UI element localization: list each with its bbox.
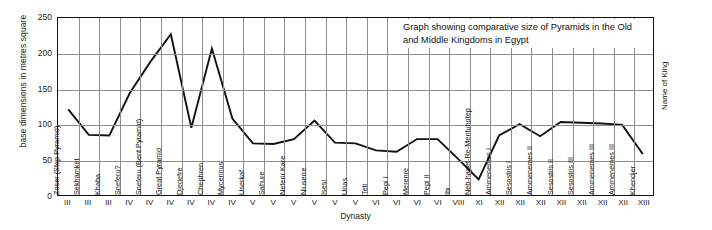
dynasty-label: VI: [386, 198, 407, 207]
v-gridline-1: [79, 18, 80, 195]
x-axis-title: Dynasty: [57, 211, 654, 221]
dynasty-label: V: [325, 198, 346, 207]
dynasty-label: V: [283, 198, 304, 207]
y-axis-tick-labels: 050100150200250: [12, 0, 52, 230]
y-tick-200: 200: [18, 48, 52, 58]
v-gridline-3: [120, 18, 121, 195]
dynasty-label: XII: [489, 198, 510, 207]
dynasty-label: XII: [551, 198, 572, 207]
dynasty-label: VI: [428, 198, 449, 207]
v-gridline-11: [284, 18, 285, 195]
dynasty-label: IV: [201, 198, 222, 207]
dynasty-label: III: [57, 198, 78, 207]
dynasty-label: XII: [592, 198, 613, 207]
dynasty-label: IV: [181, 198, 202, 207]
dynasty-label: IV: [160, 198, 181, 207]
dynasty-label: V: [345, 198, 366, 207]
dynasty-label: XII: [572, 198, 593, 207]
v-gridline-16: [387, 18, 388, 195]
dynasty-label: V: [304, 198, 325, 207]
dynasty-label: XIII: [633, 198, 654, 207]
v-gridline-14: [346, 18, 347, 195]
y-tick-250: 250: [18, 12, 52, 22]
v-gridline-10: [264, 18, 265, 195]
series-polyline: [68, 34, 642, 179]
v-gridline-12: [305, 18, 306, 195]
y-tick-0: 0: [18, 191, 52, 201]
v-gridline-15: [367, 18, 368, 195]
dynasty-label: V: [242, 198, 263, 207]
dynasty-label: IV: [119, 198, 140, 207]
dynasty-label: IV: [139, 198, 160, 207]
name-of-king-caption: Name of King: [660, 62, 669, 110]
y-tick-50: 50: [18, 155, 52, 165]
chart-root: base dimensions in metres square 0501001…: [0, 0, 712, 230]
y-tick-150: 150: [18, 84, 52, 94]
v-gridline-4: [140, 18, 141, 195]
v-gridline-6: [182, 18, 183, 195]
dynasty-axis-labels: IIIIIIIIIIVIVIVIVIVIVVVVVVVVIVIVIVIVIIIX…: [57, 198, 654, 212]
v-gridline-9: [243, 18, 244, 195]
v-gridline-5: [161, 18, 162, 195]
h-gridline-150: [58, 90, 653, 91]
v-gridline-13: [326, 18, 327, 195]
v-gridline-2: [99, 18, 100, 195]
dynasty-label: XII: [613, 198, 634, 207]
dynasty-label: V: [263, 198, 284, 207]
dynasty-label: III: [78, 198, 99, 207]
dynasty-label: XII: [530, 198, 551, 207]
dynasty-label: IV: [222, 198, 243, 207]
chart-title: Graph showing comparative size of Pyrami…: [400, 19, 651, 48]
dynasty-label: XII: [510, 198, 531, 207]
h-gridline-200: [58, 54, 653, 55]
y-tick-100: 100: [18, 119, 52, 129]
v-gridline-7: [202, 18, 203, 195]
h-gridline-100: [58, 125, 653, 126]
h-gridline-50: [58, 161, 653, 162]
chart-title-line-1: Graph showing comparative size of Pyrami…: [403, 21, 649, 34]
dynasty-label: VIII: [448, 198, 469, 207]
dynasty-label: VI: [366, 198, 387, 207]
chart-title-line-2: and Middle Kingdoms in Egypt: [403, 34, 649, 47]
dynasty-label: VI: [407, 198, 428, 207]
v-gridline-8: [223, 18, 224, 195]
dynasty-label: III: [98, 198, 119, 207]
dynasty-label: XI: [469, 198, 490, 207]
